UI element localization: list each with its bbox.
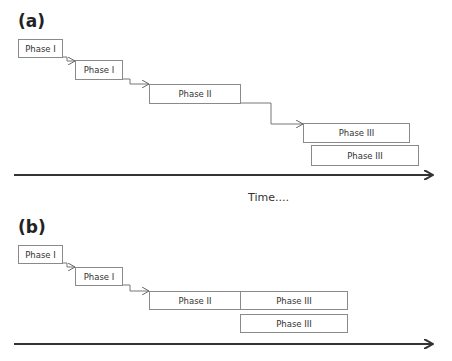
connector-a-1 bbox=[62, 57, 75, 61]
phase-box-b-5: Phase III bbox=[240, 314, 348, 333]
connector-a-3 bbox=[240, 103, 303, 124]
panel-label-a: (a) bbox=[18, 13, 45, 30]
phase-box-a-3: Phase II bbox=[149, 84, 241, 104]
connector-a-2 bbox=[122, 79, 149, 84]
phase-box-a-4: Phase III bbox=[303, 123, 410, 143]
phase-box-a-2: Phase I bbox=[75, 60, 123, 80]
connector-b-2 bbox=[122, 285, 149, 291]
phase-box-a-5: Phase III bbox=[311, 145, 419, 166]
connector-b-1 bbox=[62, 263, 75, 267]
phase-box-b-1: Phase I bbox=[18, 245, 63, 264]
phase-box-a-1: Phase I bbox=[18, 39, 63, 58]
time-axis-label: Time.... bbox=[248, 191, 289, 204]
phase-box-b-2: Phase I bbox=[75, 267, 123, 286]
phase-box-b-4: Phase III bbox=[240, 291, 348, 310]
panel-label-b: (b) bbox=[18, 219, 46, 236]
phase-box-b-3: Phase II bbox=[149, 291, 241, 310]
